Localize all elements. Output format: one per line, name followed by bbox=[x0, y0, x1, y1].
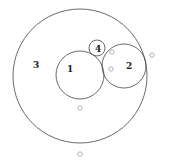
point-marker bbox=[109, 67, 113, 71]
circle-3 bbox=[13, 9, 147, 143]
circle-label-2: 2 bbox=[126, 61, 132, 71]
point-marker bbox=[150, 53, 154, 57]
circle-diagram: 3124 bbox=[0, 0, 169, 166]
circle-2 bbox=[102, 44, 146, 88]
circle-label-4: 4 bbox=[95, 44, 101, 54]
circle-1 bbox=[56, 51, 104, 99]
point-marker bbox=[110, 50, 114, 54]
circle-label-3: 3 bbox=[33, 60, 39, 70]
point-marker bbox=[78, 106, 82, 110]
point-marker bbox=[78, 152, 82, 156]
circle-label-1: 1 bbox=[67, 64, 73, 74]
